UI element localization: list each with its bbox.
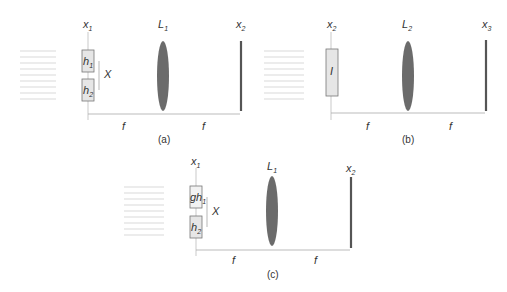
label-x2: x2 bbox=[235, 18, 246, 32]
label-f-left: f bbox=[122, 120, 126, 132]
lens-L1 bbox=[266, 176, 278, 246]
label-x3: x3 bbox=[481, 18, 492, 32]
label-X: X bbox=[103, 68, 112, 80]
label-L1: L1 bbox=[158, 18, 168, 32]
caption-a: (a) bbox=[158, 134, 170, 145]
label-f-left: f bbox=[366, 120, 370, 132]
label-x1: x1 bbox=[82, 18, 93, 32]
caption-c: (c) bbox=[267, 269, 279, 280]
lens-L2 bbox=[402, 41, 414, 111]
label-x2: x2 bbox=[326, 18, 337, 32]
label-f-right: f bbox=[449, 120, 453, 132]
optics-diagram: x1 L1 x2 h1 h2 X f f (a) x2 L2 x3 I f bbox=[0, 0, 507, 292]
incident-rays bbox=[124, 187, 164, 235]
caption-b: (b) bbox=[402, 134, 414, 145]
panel-a: x1 L1 x2 h1 h2 X f f (a) bbox=[20, 18, 246, 145]
label-f-right: f bbox=[202, 120, 206, 132]
label-I: I bbox=[330, 65, 333, 77]
label-L1: L1 bbox=[267, 160, 277, 174]
label-f-right: f bbox=[314, 254, 318, 266]
label-f-left: f bbox=[232, 254, 236, 266]
panel-c: x1 L1 x2 gh1 h2 X f f (c) bbox=[124, 155, 356, 280]
label-X: X bbox=[211, 205, 220, 217]
label-L2: L2 bbox=[402, 18, 412, 32]
lens-L1 bbox=[157, 41, 169, 111]
label-x1: x1 bbox=[190, 155, 201, 169]
label-x2: x2 bbox=[345, 162, 356, 176]
panel-b: x2 L2 x3 I f f (b) bbox=[264, 18, 492, 145]
incident-rays bbox=[20, 51, 56, 99]
incident-rays bbox=[264, 51, 304, 99]
label-gh1: gh1 bbox=[190, 191, 206, 205]
